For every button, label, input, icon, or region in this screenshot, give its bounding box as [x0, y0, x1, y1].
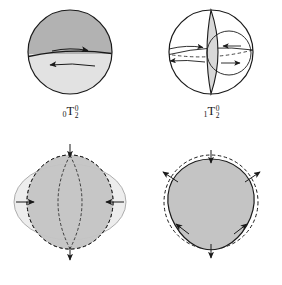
panel-0t2: 0T02 — [0, 0, 141, 142]
mode-label-1t2: 1T02 — [141, 104, 282, 119]
outer-lower-arrow — [170, 60, 205, 62]
mode-label-1t2-sub: 2 — [216, 112, 220, 119]
mode-label-1t2-indices: 02 — [216, 105, 220, 119]
mode-label-1t2-letter: T — [208, 104, 216, 118]
mode-label-0t2-indices: 02 — [75, 105, 79, 119]
panel-1t2: 1T02 — [141, 0, 282, 142]
mode-label-0t2: 0T02 — [0, 104, 141, 119]
outer-upper-arrow — [169, 46, 203, 49]
normal-mode-figure: 0T02 — [0, 0, 282, 285]
mode-label-0t2-letter: T — [67, 104, 75, 118]
panel-0s2: 0S02 — [0, 142, 141, 285]
lens-nodal-surface — [207, 10, 218, 94]
upper-hemisphere-fill — [22, 4, 118, 54]
panel-0s3: 0S03 — [141, 142, 282, 285]
mode-label-0t2-sub: 2 — [75, 112, 79, 119]
deformed-body — [168, 159, 254, 250]
